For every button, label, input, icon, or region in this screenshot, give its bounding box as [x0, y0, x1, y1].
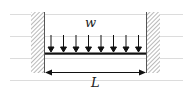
beam	[45, 53, 146, 55]
distributed-load-arrows	[48, 35, 142, 52]
load-label: w	[85, 16, 96, 29]
right-fixed-support	[146, 12, 160, 73]
span-label: L	[91, 76, 100, 89]
left-fixed-support	[31, 12, 45, 73]
